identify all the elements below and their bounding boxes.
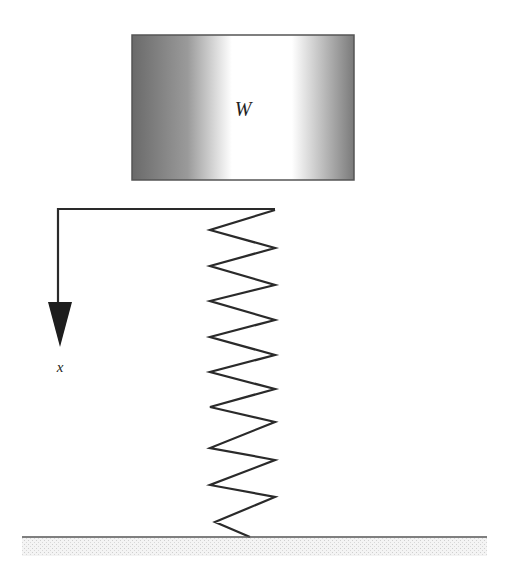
- spring: [210, 210, 275, 537]
- x-axis-arrow: x: [48, 209, 275, 375]
- arrowhead-icon: [48, 302, 72, 347]
- mass-spring-diagram: W x: [0, 0, 511, 577]
- axis-label: x: [56, 359, 64, 375]
- weight-label: W: [235, 98, 254, 120]
- weight-block: W: [132, 35, 354, 180]
- ground: [22, 537, 487, 556]
